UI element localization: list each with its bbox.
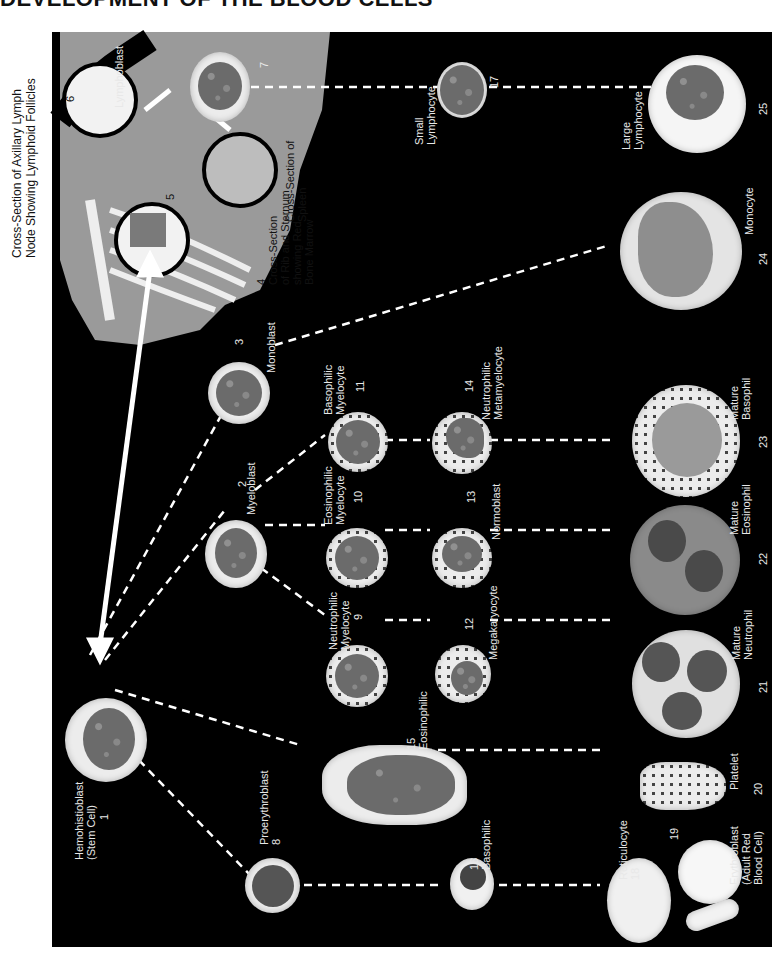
num-3: 3 [233,339,245,345]
label-eosinophilic-myelocyte: EosinophilicMyelocyte [322,466,346,525]
label-proerythroblast: Proerythroblast8 [258,770,282,845]
label-small-lymphocyte: SmallLymphocyte [413,86,437,145]
cell-eosinophilic-metamyelocyte [432,528,492,588]
cell-mature-basophil [632,385,740,497]
lymph-node-number: 6 [64,96,76,102]
lymph-node-caption-line2: Node Showing Lymphoid Follicles [24,78,38,258]
num-20: 20 [752,783,764,795]
label-myeloblast: Myeloblast [245,462,257,515]
cell-neutrophilic-metamyelocyte [435,645,491,703]
label-erythroblast: Erythroblast(Adult RedBlood Cell) [728,826,764,885]
label-neutrophilic-metamyelocyte: Megakaryocyte [487,585,499,660]
num-10: 10 [352,491,364,503]
cell-neutrophilic-myelocyte [326,645,388,707]
cell-small-lymphocyte [437,62,487,118]
cell-basophilic-myelocyte [328,412,388,472]
label-mature-neutrophil: MatureNeutrophil [730,610,754,660]
num-7: 7 [258,62,270,68]
cell-mature-neutrophil [632,630,740,738]
label-neutrophilic-myelocyte: NeutrophilicMyelocyte [327,592,351,650]
label-mature-basophil: MatureBasophil [728,378,752,420]
label-monoblast: Monoblast [265,322,277,373]
num-25: 25 [757,103,769,115]
label-lymphoblast: Lymphoblast [113,46,125,108]
cell-basophilic-metamyelocyte [432,412,492,474]
num-19: 19 [668,828,680,840]
label-megakaryocyte: 15Eosinophilic [405,691,429,750]
rib-caption: 4 Cross-Section of Rib and Sternum showi… [255,190,315,285]
num-17: 17 [488,76,500,88]
lymph-node-caption: Cross-Section of Axillary Lymph Node Sho… [10,78,38,258]
cell-proerythroblast [245,858,300,913]
cell-platelet [640,762,726,810]
label-basophilic-myelocyte: BasophilicMyelocyte [322,365,346,415]
num-9: 9 [352,614,364,620]
num-15: 13 [465,491,477,503]
cell-monocyte [620,192,742,310]
label-reticulocyte: Reticulocyte18 [617,820,641,880]
num-23: 23 [757,436,769,448]
num-22: 22 [757,553,769,565]
spleen-number: 5 [164,194,176,200]
num-16: 14 [463,380,475,392]
cell-lymphoblast [190,52,250,122]
label-stem-cell: Hemohistioblast(Stem Cell) [73,782,97,860]
label-mature-eosinophil: MatureEosinophil [728,484,752,535]
cell-megakaryocyte [322,745,467,825]
cell-large-lymphocyte [648,55,746,153]
num-21: 21 [757,681,769,693]
label-platelet: Platelet [728,753,740,790]
cell-mature-eosinophil [630,505,740,615]
label-monocyte: Monocyte [743,187,755,235]
num-1: 1 [98,814,110,820]
cell-monoblast [208,362,270,424]
cell-stem-cell [65,698,147,782]
num-2: 2 [236,481,248,487]
label-eosinophilic-metamyelocyte: Normoblast [490,484,502,540]
page-title: DEVELOPMENT OF THE BLOOD CELLS [0,0,433,12]
cell-myeloblast [205,520,267,588]
lymph-node-caption-line1: Cross-Section of Axillary Lymph [10,78,24,258]
num-24: 24 [757,253,769,265]
label-normoblast: 16Basophilic [468,820,492,870]
cell-eosinophilic-myelocyte [326,528,388,588]
label-basophilic-metamyelocyte: NeutrophilicMetamyelocyte [480,346,504,420]
num-14: 12 [463,618,475,630]
num-11: 11 [354,381,366,392]
label-large-lymphocyte: LargeLymphocyte [620,91,644,150]
